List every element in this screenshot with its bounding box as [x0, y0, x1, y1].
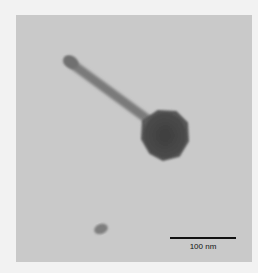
- phage-illustration: [16, 15, 252, 262]
- phage-tail: [68, 61, 150, 121]
- debris-particle: [93, 222, 110, 236]
- micrograph-panel: [16, 15, 252, 262]
- scale-bar: [170, 237, 236, 239]
- phage-head: [142, 111, 188, 160]
- scale-bar-label: 100 nm: [170, 242, 236, 251]
